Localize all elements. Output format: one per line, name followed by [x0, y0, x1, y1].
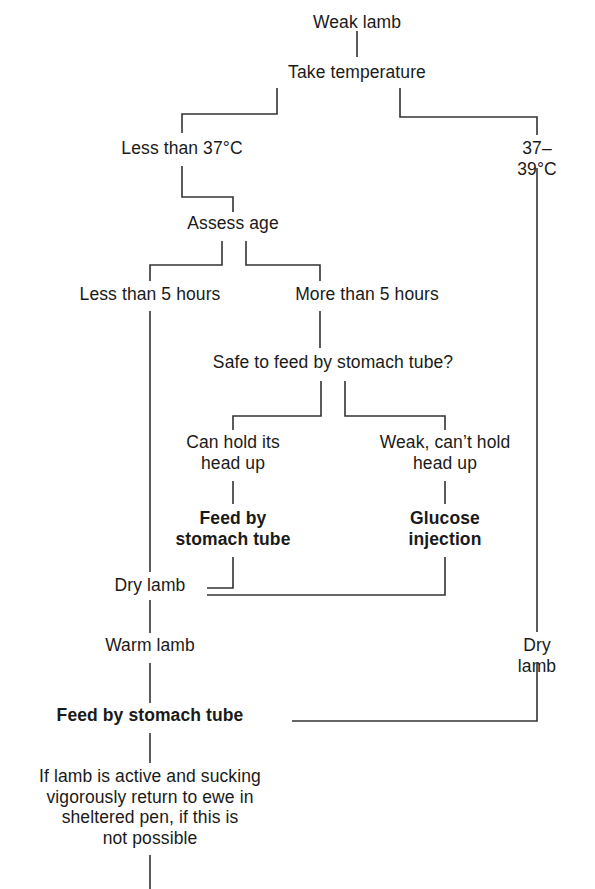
node-assess-age: Assess age [187, 213, 278, 234]
node-warm-lamb: Warm lamb [105, 635, 195, 656]
node-less-than-37c: Less than 37°C [121, 138, 242, 159]
node-feed-by-stomach-tube-primary: Feed by stomach tube [176, 508, 291, 550]
node-if-lamb-is-active: If lamb is active and sucking vigorously… [39, 766, 261, 849]
node-take-temperature: Take temperature [288, 62, 426, 83]
edge-dry-lamb-right-to-feed-by-stomach-tube [292, 663, 537, 721]
node-safe-to-feed-by-stomach-tube: Safe to feed by stomach tube? [213, 352, 453, 373]
node-weak-lamb: Weak lamb [313, 12, 401, 33]
node-glucose-injection: Glucose injection [409, 508, 482, 550]
flowchart-canvas: Weak lamb Take temperature Less than 37°… [0, 0, 595, 889]
node-less-than-5-hours: Less than 5 hours [80, 284, 221, 305]
edge-take-temperature-to-less-than-37c [182, 88, 277, 133]
edge-feed-by-stomach-tube-to-dry-lamb [207, 557, 233, 588]
edge-less-than-37c-to-assess-age [182, 166, 233, 212]
node-can-hold-its-head-up: Can hold its head up [186, 432, 280, 474]
edge-safe-to-feed-to-weak-cant-hold-head [345, 381, 445, 430]
node-37-39c: 37–39°C [508, 138, 566, 179]
edge-assess-age-to-more-than-5-hours [246, 241, 320, 281]
edge-glucose-injection-to-dry-lamb [207, 557, 445, 595]
node-dry-lamb-right: Dry lamb [508, 635, 566, 676]
edge-take-temperature-to-37-39c [400, 88, 537, 135]
node-weak-cant-hold-head-up: Weak, can’t hold head up [380, 432, 511, 474]
node-dry-lamb-left: Dry lamb [115, 575, 186, 596]
node-more-than-5-hours: More than 5 hours [295, 284, 439, 305]
edge-assess-age-to-less-than-5-hours [150, 241, 222, 281]
node-feed-by-stomach-tube-final: Feed by stomach tube [57, 705, 244, 726]
edge-safe-to-feed-to-can-hold-head-up [233, 381, 321, 430]
